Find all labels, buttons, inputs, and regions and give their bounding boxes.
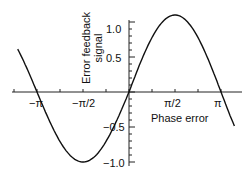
- xtick-half-pi: π/2: [164, 97, 181, 109]
- y-axis-label: Error feedbacksignal: [80, 8, 104, 88]
- xtick-neg-half-pi: −π/2: [72, 97, 95, 109]
- ytick-1: 1.0: [106, 23, 121, 35]
- ytick-05: 0.5: [106, 52, 121, 64]
- signal-curve: [18, 15, 235, 162]
- x-axis-label: Phase error: [151, 112, 208, 124]
- xtick-neg-pi: −π: [29, 97, 43, 109]
- ytick-neg1: −1.0: [103, 157, 125, 169]
- chart: −π −π/2 π/2 π 1.0 0.5 −0.5 −1.0 Phase er…: [0, 0, 249, 179]
- ytick-neg05: −0.5: [103, 121, 125, 133]
- plot-area: [0, 0, 249, 179]
- xtick-pi: π: [214, 97, 222, 109]
